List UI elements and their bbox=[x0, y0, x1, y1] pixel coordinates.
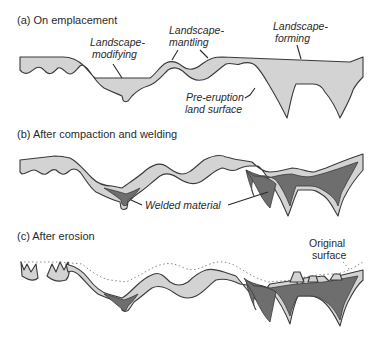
label-original-2: surface bbox=[312, 249, 347, 261]
leader-mantling-right bbox=[200, 50, 208, 58]
leader-welded-right bbox=[228, 192, 268, 205]
ignimbrite-diagram: (a) On emplacement Landscape- modifying … bbox=[0, 0, 381, 340]
label-original-1: Original bbox=[309, 237, 345, 249]
label-landscape-mantling-1: Landscape- bbox=[169, 24, 224, 36]
panel-b-title: (b) After compaction and welding bbox=[17, 128, 177, 140]
label-landscape-modifying-2: modifying bbox=[92, 48, 137, 60]
panel-c-title: (c) After erosion bbox=[17, 230, 95, 242]
label-pre-eruption-2: land surface bbox=[185, 103, 242, 115]
leader-mantling-left bbox=[172, 50, 178, 60]
leader-original-surface bbox=[343, 262, 350, 270]
label-landscape-mantling-2: mantling bbox=[169, 36, 209, 48]
leader-welded bbox=[131, 200, 142, 205]
leader-modifying bbox=[113, 64, 122, 78]
label-landscape-forming-2: forming bbox=[275, 32, 310, 44]
label-pre-eruption-1: Pre-eruption bbox=[186, 91, 244, 103]
panel-c-remnant-left bbox=[21, 262, 38, 280]
leader-pre-eruption bbox=[245, 88, 255, 98]
label-landscape-forming-1: Landscape- bbox=[273, 20, 328, 32]
panel-b: (b) After compaction and welding Welded … bbox=[17, 128, 363, 216]
panel-c-knob-1 bbox=[290, 272, 304, 282]
panel-c: (c) After erosion Original surface bbox=[17, 230, 363, 326]
panel-c-knob-3 bbox=[330, 274, 342, 280]
panel-c-knob-2 bbox=[308, 276, 318, 282]
panel-a: (a) On emplacement Landscape- modifying … bbox=[17, 14, 363, 118]
label-welded-material: Welded material bbox=[145, 199, 221, 211]
panel-a-title: (a) On emplacement bbox=[17, 14, 117, 26]
leader-forming bbox=[297, 45, 301, 59]
label-landscape-modifying-1: Landscape- bbox=[90, 36, 145, 48]
